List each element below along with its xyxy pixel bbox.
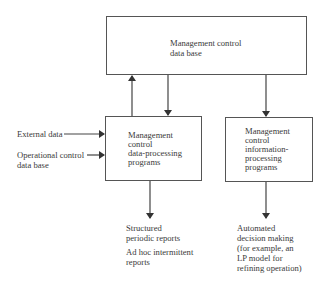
node-dp-label-4: programs (128, 157, 160, 167)
output-adhoc-label-2: reports (126, 257, 150, 267)
node-ip-label-5: programs (245, 162, 277, 172)
output-structured-label-2: periodic reports (126, 233, 180, 243)
output-automated-label-3: (for example, an (237, 243, 294, 253)
node-db-label-1: Management control (170, 38, 241, 48)
output-automated-label-1: Automated (237, 223, 275, 233)
output-structured-label-1: Structured (126, 223, 162, 233)
output-automated-label-4: LP model for (237, 253, 283, 263)
input-operational-label-1: Operational control (17, 150, 84, 160)
input-operational-label-2: data base (17, 160, 49, 170)
output-adhoc-label-1: Ad hoc intermittent (126, 247, 193, 257)
input-external-data-label: External data (17, 129, 63, 139)
node-db-label-2: data base (170, 48, 202, 58)
output-automated-label-5: refining operation) (237, 263, 302, 273)
output-automated-label-2: decision making (237, 233, 294, 243)
